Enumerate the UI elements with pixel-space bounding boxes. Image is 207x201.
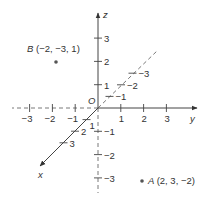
y-tick-label: −3 — [22, 113, 33, 124]
y-tick-label: −2 — [44, 113, 55, 124]
x-tick-label: 2 — [81, 126, 86, 137]
z-tick-label: −1 — [104, 126, 115, 137]
y-axis-label: y — [189, 113, 196, 124]
y-tick-label: −1 — [67, 113, 78, 124]
x-tick-label: −1 — [116, 91, 127, 102]
z-axis-label: z — [102, 9, 108, 20]
x-tick-label: −3 — [139, 68, 150, 79]
y-tick-label: 2 — [142, 113, 147, 124]
z-tick-label: 1 — [104, 80, 109, 91]
point-a-label: A (2, 3, −2) — [147, 175, 195, 186]
origin-label: O — [88, 95, 96, 106]
x-tick-label: 3 — [70, 138, 75, 149]
point-b-dot — [54, 60, 58, 64]
point-letter: A — [147, 175, 157, 186]
point-coordinates: (2, 3, −2) — [157, 175, 195, 186]
y-tick-label: 1 — [119, 113, 124, 124]
x-axis-label: x — [37, 169, 44, 180]
z-tick-label: −2 — [104, 150, 115, 161]
z-tick-label: −3 — [104, 173, 115, 184]
y-tick-label: 3 — [164, 113, 169, 124]
point-coordinates: (−2, −3, 1) — [36, 43, 80, 54]
x-tick-label: 1 — [90, 120, 95, 131]
z-tick-label: 2 — [104, 56, 109, 67]
coordinate-diagram: 1−12−23−31−12−23−31−12−23−3zyxO A (2, 3,… — [0, 0, 207, 201]
x-tick-label: −2 — [127, 80, 138, 91]
z-tick-label: 3 — [104, 33, 109, 44]
point-a-dot — [140, 179, 144, 183]
point-b-label: B (−2, −3, 1) — [27, 43, 80, 54]
point-letter: B — [27, 43, 36, 54]
